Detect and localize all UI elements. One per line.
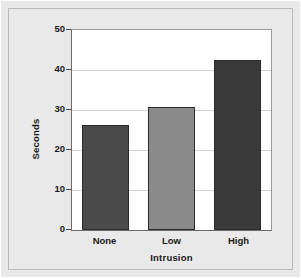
bar-chart-figure: Seconds 50 40 30 20 10 0 None Low High I… [0,0,301,278]
y-tick-label: 40 [39,64,65,74]
x-axis-title: Intrusion [71,252,272,263]
x-tick-label-low: Low [138,234,205,248]
bar-low[interactable] [148,107,195,230]
bar-high[interactable] [214,60,261,230]
y-tick-label: 20 [39,144,65,154]
x-axis-tick-labels: None Low High [71,234,272,248]
y-tick-label: 30 [39,104,65,114]
plot-area [71,29,272,231]
y-axis-tick-labels: 50 40 30 20 10 0 [37,29,65,229]
bar-none[interactable] [82,125,129,230]
y-tick-label: 10 [39,184,65,194]
y-tick-label: 0 [39,224,65,234]
x-tick-label-none: None [71,234,138,248]
x-tick-label-high: High [205,234,272,248]
y-tick-label: 50 [39,24,65,34]
